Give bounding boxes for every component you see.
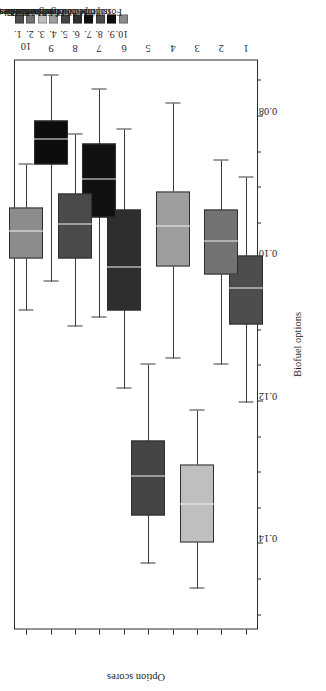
category-axis-tick (197, 629, 198, 634)
boxplot-box-group[interactable] (14, 59, 258, 629)
category-axis-tick (148, 629, 149, 634)
value-axis-minor-tick (258, 79, 261, 80)
category-axis-tick (99, 629, 100, 634)
category-axis-tick (173, 629, 174, 634)
value-axis-minor-tick (258, 329, 261, 330)
value-axis-label: 0.08 (259, 105, 277, 116)
category-axis-label: 4 (170, 43, 175, 54)
boxplot-series-layer (14, 59, 258, 629)
value-axis-minor-tick (258, 364, 261, 365)
value-axis-minor-tick (258, 151, 261, 152)
legend-item-label: Fossil fuel (80, 6, 122, 16)
category-axis-label: 5 (146, 43, 151, 54)
category-axis-tick (51, 629, 52, 634)
value-axis-minor-tick (258, 471, 261, 472)
category-axis-label: 6 (121, 43, 126, 54)
boxplot-figure: 0.140.120.100.0812345678910 Option score… (0, 0, 326, 691)
category-axis-label: 3 (194, 43, 199, 54)
box-rect[interactable] (9, 207, 43, 258)
value-axis-title: Option scores (107, 672, 165, 683)
whisker-cap (19, 163, 34, 164)
value-axis-minor-tick (258, 186, 261, 187)
category-axis-label: 9 (48, 43, 53, 54)
category-axis-tick (75, 629, 76, 634)
category-axis-tick (26, 629, 27, 634)
value-axis-label: 0.14 (259, 533, 277, 544)
value-axis-minor-tick (258, 578, 261, 579)
value-axis-label: 0.12 (259, 390, 277, 401)
category-axis-label: 2 (219, 43, 224, 54)
value-axis-minor-tick (258, 507, 261, 508)
category-axis-label: 7 (97, 43, 102, 54)
whisker-cap (19, 309, 34, 310)
category-axis-label: 1 (243, 43, 248, 54)
value-axis-minor-tick (258, 436, 261, 437)
category-axis-tick (221, 629, 222, 634)
rotated-figure-wrapper: 0.140.120.100.0812345678910 Option score… (0, 0, 326, 691)
category-axis-tick (124, 629, 125, 634)
category-axis-label: 8 (72, 43, 77, 54)
median-line (9, 230, 43, 231)
value-axis-minor-tick (258, 614, 261, 615)
chart-legend: 1.Ethanol 1G2.Biodiesel 1G3.Waste-based … (0, 0, 326, 43)
category-axis-tick (246, 629, 247, 634)
legend-item-number: 10. (115, 29, 129, 40)
category-axis-title: Biofuel options (292, 311, 303, 376)
value-axis-minor-tick (258, 222, 261, 223)
